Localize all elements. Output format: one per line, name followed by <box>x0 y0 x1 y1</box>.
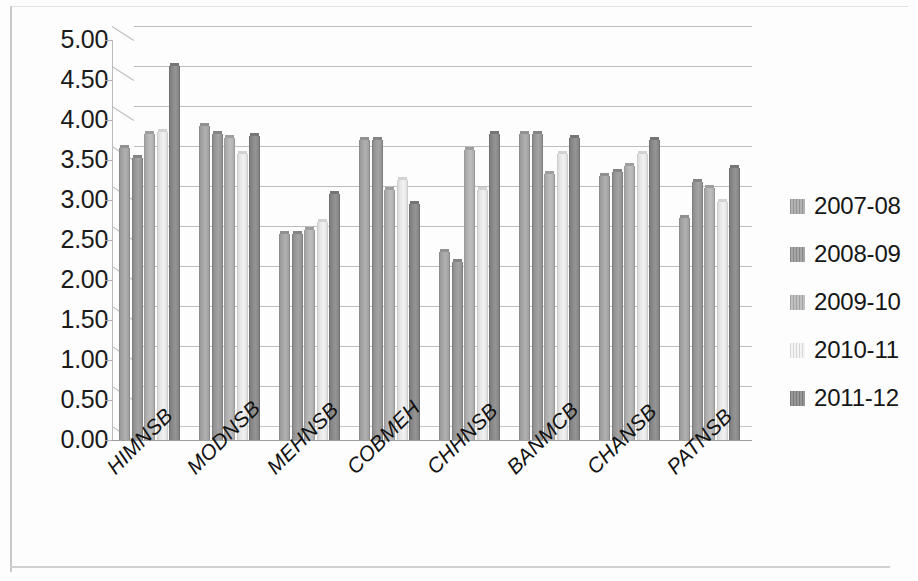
gridline <box>134 26 752 27</box>
legend-label: 2009-10 <box>814 290 901 314</box>
bar-top-face <box>398 177 407 180</box>
bar-column <box>692 182 703 440</box>
bar-column <box>612 172 623 440</box>
bar-column <box>304 230 315 440</box>
bar-top-face <box>305 227 314 230</box>
y-axis-tick-mark <box>105 320 112 321</box>
bar-top-face <box>145 131 154 134</box>
bar-column <box>649 140 660 440</box>
y-axis-tick-mark <box>105 400 112 401</box>
bar-top-face <box>410 201 419 204</box>
legend-item: 2011-12 <box>790 374 915 422</box>
bar-top-face <box>705 185 714 188</box>
bar-top-face <box>680 215 689 218</box>
legend-swatch-icon <box>790 391 805 406</box>
legend-item: 2007-08 <box>790 182 915 230</box>
bar-top-face <box>158 129 167 132</box>
bar-top-face <box>170 63 179 66</box>
bar-column <box>452 262 463 440</box>
bar-column <box>384 190 395 440</box>
bar-column <box>292 234 303 440</box>
bar-column <box>249 136 260 440</box>
bar-top-face <box>360 137 369 140</box>
bar-column <box>372 140 383 440</box>
bar-column <box>599 176 610 440</box>
bar-top-face <box>453 259 462 262</box>
bar-top-face <box>545 171 554 174</box>
bar-column <box>569 138 580 440</box>
bar-top-face <box>638 151 647 154</box>
legend-item: 2010-11 <box>790 326 915 374</box>
bar-column <box>199 126 210 440</box>
bar-column <box>489 134 500 440</box>
plot-area <box>112 40 752 440</box>
y-axis-tick-mark <box>105 160 112 161</box>
bar-columns <box>112 40 752 440</box>
bar-column <box>279 234 290 440</box>
bar-top-face <box>718 199 727 202</box>
bar-top-face <box>600 173 609 176</box>
bar-top-face <box>318 219 327 222</box>
legend-swatch-icon <box>790 247 805 262</box>
bar-top-face <box>213 131 222 134</box>
bar-top-face <box>693 179 702 182</box>
bar-top-face <box>465 147 474 150</box>
legend-item: 2008-09 <box>790 230 915 278</box>
bar-top-face <box>570 135 579 138</box>
legend-swatch-icon <box>790 199 805 214</box>
legend-label: 2008-09 <box>814 242 901 266</box>
y-axis-tick-mark <box>105 280 112 281</box>
bar-top-face <box>133 155 142 158</box>
bar-top-face <box>330 191 339 194</box>
chart-legend: 2007-082008-092009-102010-112011-12 <box>790 182 915 422</box>
bar-top-face <box>520 131 529 134</box>
y-axis-tick-mark <box>105 360 112 361</box>
y-axis-tick-label: 0.00 <box>28 427 108 452</box>
bar-column <box>359 140 370 440</box>
bar-top-face <box>293 231 302 234</box>
bar-top-face <box>730 165 739 168</box>
bar-top-face <box>440 249 449 252</box>
y-axis-tick-label: 1.00 <box>28 347 108 372</box>
bar-column <box>212 134 223 440</box>
y-axis-tick-mark <box>105 200 112 201</box>
legend-swatch-icon <box>790 295 805 310</box>
bar-column <box>624 166 635 440</box>
bar-column <box>544 174 555 440</box>
bar-top-face <box>238 151 247 154</box>
scan-border-bottom <box>10 566 890 568</box>
bar-top-face <box>200 123 209 126</box>
bar-column <box>637 154 648 440</box>
bar-top-face <box>478 187 487 190</box>
bar-column <box>439 252 450 440</box>
bar-column <box>704 188 715 440</box>
y-axis-tick-label: 2.50 <box>28 227 108 252</box>
bar-top-face <box>120 145 129 148</box>
bar-column <box>464 150 475 440</box>
legend-label: 2010-11 <box>814 338 899 362</box>
y-axis-tick-mark <box>105 240 112 241</box>
bar-column <box>169 66 180 440</box>
bar-column <box>144 134 155 440</box>
bar-top-face <box>373 137 382 140</box>
bar-top-face <box>490 131 499 134</box>
bar-top-face <box>625 163 634 166</box>
y-axis-tick-label: 5.00 <box>28 27 108 52</box>
bar-column <box>679 218 690 440</box>
y-axis-tick-mark <box>105 80 112 81</box>
legend-label: 2011-12 <box>814 386 899 410</box>
bar-column <box>519 134 530 440</box>
bar-column <box>157 132 168 440</box>
bar-top-face <box>250 133 259 136</box>
y-axis-tick-label: 0.50 <box>28 387 108 412</box>
bar-top-face <box>650 137 659 140</box>
y-axis-tick-mark <box>105 40 112 41</box>
bar-column <box>532 134 543 440</box>
bar-top-face <box>225 135 234 138</box>
bar-top-face <box>613 169 622 172</box>
y-axis-tick-label: 1.50 <box>28 307 108 332</box>
bar-top-face <box>558 151 567 154</box>
bar-top-face <box>385 187 394 190</box>
y-axis-tick-label: 3.50 <box>28 147 108 172</box>
chart-screenshot: 5.004.504.003.503.002.502.001.501.000.50… <box>0 0 918 581</box>
